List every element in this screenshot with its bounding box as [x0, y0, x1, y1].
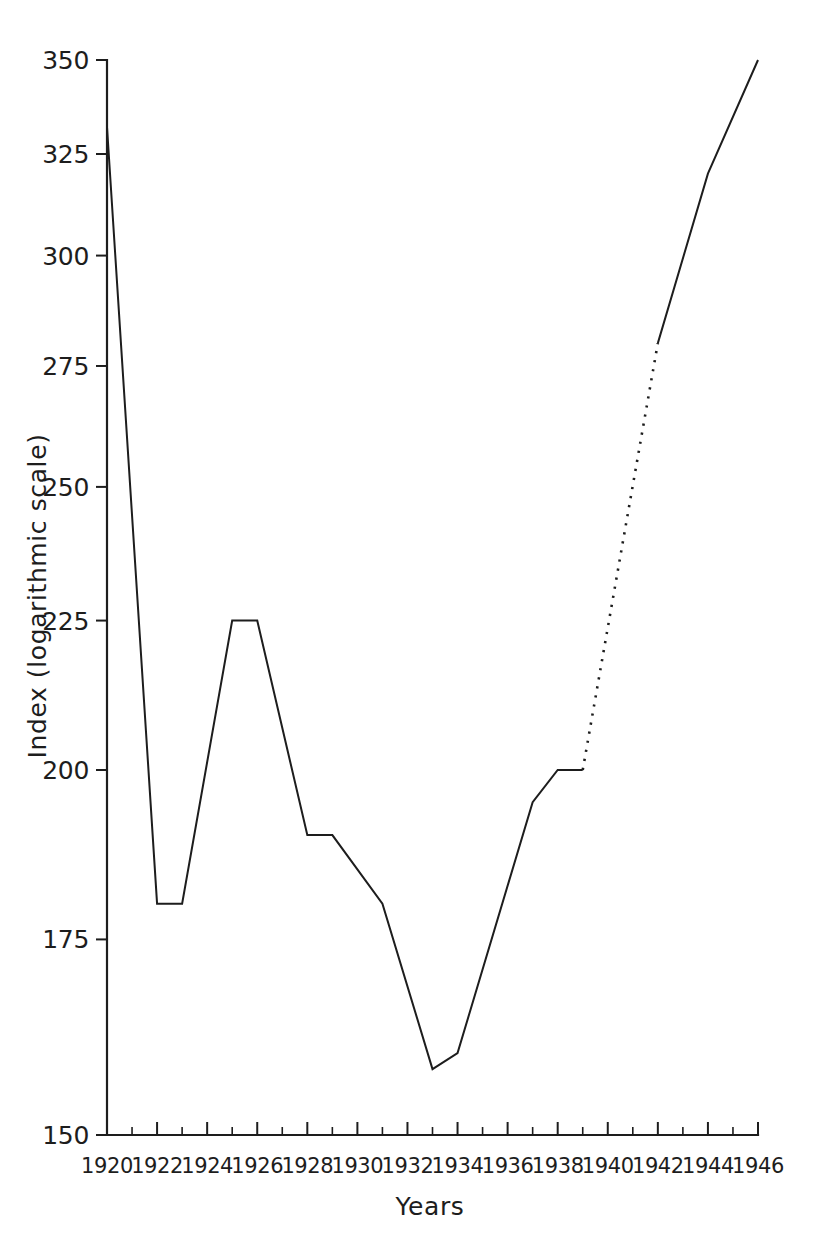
line-chart-svg: 1501752002252502753003253501920192219241…: [0, 0, 815, 1242]
x-axis-tick-label: 1926: [231, 1154, 283, 1178]
chart-figure: 1501752002252502753003253501920192219241…: [0, 0, 815, 1242]
x-axis-tick-label: 1938: [532, 1154, 584, 1178]
x-axis-tick-label: 1934: [432, 1154, 484, 1178]
y-axis-tick-label: 150: [42, 1121, 89, 1150]
y-axis-tick-label: 350: [42, 46, 89, 75]
x-axis-tick-label: 1922: [131, 1154, 183, 1178]
x-axis-tick-label: 1928: [281, 1154, 333, 1178]
data-line-dotted: [583, 343, 658, 770]
y-axis-tick-label: 275: [42, 352, 89, 381]
y-axis-tick-label: 325: [42, 140, 89, 169]
y-axis-tick-label: 200: [42, 756, 89, 785]
x-axis-title: Years: [395, 1192, 465, 1221]
y-axis-tick-label: 300: [42, 242, 89, 271]
x-axis-tick-label: 1932: [382, 1154, 434, 1178]
data-line-solid: [658, 60, 758, 343]
x-axis-tick-label: 1930: [331, 1154, 383, 1178]
y-axis-tick-label: 175: [42, 925, 89, 954]
x-axis-tick-label: 1920: [81, 1154, 133, 1178]
x-axis-tick-label: 1940: [582, 1154, 634, 1178]
data-line-solid: [107, 127, 583, 1069]
x-axis-tick-label: 1944: [682, 1154, 734, 1178]
x-axis-tick-label: 1924: [181, 1154, 233, 1178]
y-axis-title: Index (logarithmic scale): [23, 434, 52, 759]
x-axis-tick-label: 1946: [732, 1154, 784, 1178]
x-axis-tick-label: 1942: [632, 1154, 684, 1178]
x-axis-tick-label: 1936: [482, 1154, 534, 1178]
